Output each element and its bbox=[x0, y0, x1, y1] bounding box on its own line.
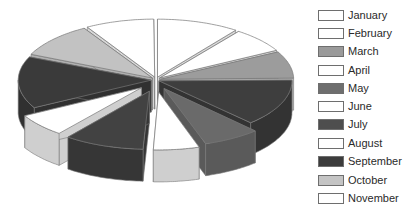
legend-swatch bbox=[318, 156, 344, 167]
legend-item: October bbox=[318, 175, 416, 187]
legend-item: January bbox=[318, 10, 416, 22]
legend-swatch bbox=[318, 175, 344, 186]
legend-swatch bbox=[318, 46, 344, 57]
legend-label: May bbox=[348, 82, 369, 95]
legend-item: September bbox=[318, 156, 416, 168]
legend-item: June bbox=[318, 101, 416, 113]
legend-item: November bbox=[318, 193, 416, 205]
legend-swatch bbox=[318, 83, 344, 94]
legend-label: April bbox=[348, 64, 370, 77]
legend-item: August bbox=[318, 138, 416, 150]
legend-label: August bbox=[348, 137, 382, 150]
pie-chart-3d bbox=[0, 0, 310, 221]
legend-item: May bbox=[318, 83, 416, 95]
legend-item: July bbox=[318, 119, 416, 131]
legend-swatch bbox=[318, 65, 344, 76]
legend-label: November bbox=[348, 192, 399, 205]
legend-label: February bbox=[348, 27, 392, 40]
legend-label: October bbox=[348, 174, 387, 187]
legend-label: July bbox=[348, 118, 368, 131]
legend-swatch bbox=[318, 119, 344, 130]
legend-item: February bbox=[318, 28, 416, 40]
legend-label: June bbox=[348, 100, 372, 113]
legend-label: January bbox=[348, 9, 387, 22]
legend-swatch bbox=[318, 10, 344, 21]
legend-item: March bbox=[318, 46, 416, 58]
legend-label: September bbox=[348, 155, 402, 168]
legend-swatch bbox=[318, 101, 344, 112]
legend-swatch bbox=[318, 193, 344, 204]
legend-swatch bbox=[318, 138, 344, 149]
legend-label: March bbox=[348, 45, 379, 58]
legend-item: April bbox=[318, 65, 416, 77]
legend-swatch bbox=[318, 28, 344, 39]
